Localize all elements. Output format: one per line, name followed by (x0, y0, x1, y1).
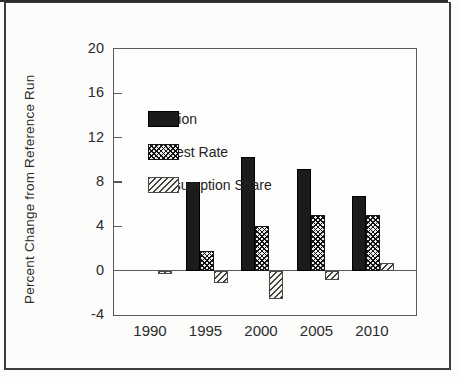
y-tick-label--4: -4 (68, 306, 104, 322)
bar-consumption-share-2005 (325, 271, 339, 280)
bar-consumption-share-2010 (380, 263, 394, 271)
plot-area: Inflation Interest Rate Consumption Shar… (113, 48, 417, 316)
legend-item-inflation: Inflation (148, 110, 197, 128)
y-tick-label-8: 8 (68, 173, 104, 189)
consumption-share-swatch-icon (148, 177, 179, 193)
x-tick-label-2005: 2005 (287, 322, 347, 339)
bar-inflation-1995 (186, 182, 200, 271)
y-tick-mark-8 (114, 181, 122, 182)
bar-interest-rate-2005 (311, 215, 325, 270)
bar-inflation-2010 (352, 196, 366, 270)
bar-interest-rate-1995 (200, 251, 214, 271)
y-tick-label-16: 16 (68, 84, 104, 100)
interest-rate-swatch-icon (148, 144, 179, 160)
bar-interest-rate-2010 (366, 215, 380, 270)
bar-inflation-2000 (241, 157, 255, 271)
y-tick-label-20: 20 (68, 40, 104, 56)
x-tick-label-1995: 1995 (176, 322, 236, 339)
x-tick-label-2000: 2000 (231, 322, 291, 339)
y-tick-mark-16 (114, 93, 122, 94)
bar-consumption-share-1990 (158, 271, 172, 274)
bar-consumption-share-2000 (269, 271, 283, 300)
x-tick-label-2010: 2010 (342, 322, 402, 339)
legend-item-interest-rate: Interest Rate (148, 143, 228, 161)
bar-consumption-share-1995 (214, 271, 228, 283)
legend-item-consumption-share: Consumption Share (148, 176, 272, 194)
y-tick-mark-12 (114, 137, 122, 138)
y-axis-title: Percent Change from Reference Run (18, 50, 40, 328)
y-tick-label-0: 0 (68, 262, 104, 278)
bar-interest-rate-2000 (255, 226, 269, 270)
y-tick-mark-4 (114, 226, 122, 227)
inflation-swatch-icon (148, 111, 179, 127)
figure-scan: Percent Change from Reference Run 201612… (0, 0, 459, 377)
bar-inflation-2005 (297, 169, 311, 271)
x-tick-label-1990: 1990 (120, 322, 180, 339)
y-tick-label-4: 4 (68, 217, 104, 233)
y-tick-label-12: 12 (68, 129, 104, 145)
